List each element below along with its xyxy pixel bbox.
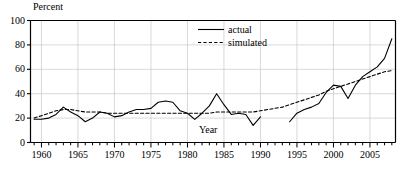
chart-figure: Percent Year actual simulated 0204060801…	[0, 0, 403, 176]
x-tick-label-1980: 1980	[170, 150, 204, 160]
series-actual-segment-1	[290, 39, 392, 122]
x-axis-title: Year	[199, 124, 217, 135]
x-tick-label-1975: 1975	[134, 150, 168, 160]
data-series-layer	[34, 39, 392, 126]
y-tick-label-60: 60	[0, 64, 25, 74]
x-tick-label-2005: 2005	[353, 150, 387, 160]
series-simulated-segment-2	[34, 71, 392, 119]
y-axis-title: Percent	[33, 1, 63, 12]
y-tick-label-0: 0	[0, 138, 25, 148]
x-axis-ticks	[34, 143, 392, 148]
x-tick-label-1965: 1965	[61, 150, 95, 160]
x-tick-label-1960: 1960	[24, 150, 58, 160]
y-tick-label-20: 20	[0, 113, 25, 123]
x-tick-label-2000: 2000	[316, 150, 350, 160]
x-tick-label-1990: 1990	[243, 150, 277, 160]
x-tick-label-1985: 1985	[207, 150, 241, 160]
y-tick-label-40: 40	[0, 89, 25, 99]
y-tick-label-80: 80	[0, 40, 25, 50]
legend-item-simulated: simulated	[228, 37, 267, 48]
legend-sample-lines	[198, 30, 224, 43]
horizontal-gridlines	[31, 21, 396, 119]
x-tick-label-1995: 1995	[280, 150, 314, 160]
legend-item-actual: actual	[228, 24, 252, 35]
x-tick-label-1970: 1970	[97, 150, 131, 160]
y-tick-label-100: 100	[0, 16, 25, 26]
